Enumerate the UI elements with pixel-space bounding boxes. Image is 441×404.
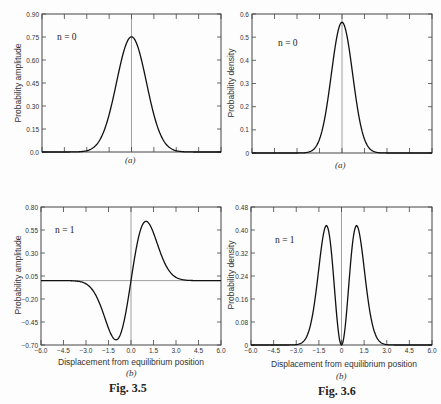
x-tick-label: 1.5: [149, 347, 158, 354]
y-tick-label: 0.2: [240, 103, 249, 110]
y-tick-label: 0.30: [25, 250, 38, 257]
plot-fig3_5b: −0.70−0.45−0.200.050.300.550.80−6.0−4.5−…: [22, 204, 226, 355]
annotation-n0-fig3-5a: n = 0: [57, 32, 77, 42]
annotation-n1-fig3-6b: n = 1: [275, 235, 295, 245]
y-tick-label: 0.80: [25, 204, 38, 211]
y-tick-label: −0.45: [22, 319, 39, 326]
y-tick-label: 0.5: [240, 34, 249, 41]
y-tick-label: 0.08: [235, 319, 248, 326]
y-tick-label: 0.48: [235, 204, 248, 211]
x-tick-label: −3.0: [80, 347, 93, 354]
y-tick-label: 0.32: [235, 250, 248, 257]
panel-label-fig3-5a: (a): [125, 155, 136, 165]
y-tick-label: 0.16: [235, 296, 248, 303]
x-tick-label: 3.0: [382, 347, 391, 354]
y-axis-label-fig3-6a: Probability density: [226, 33, 236, 133]
y-tick-label: 0.05: [25, 273, 38, 280]
x-axis-label-fig3-6b: Displacement from equilibrium position: [271, 359, 417, 369]
y-tick-label: 0.0: [30, 149, 39, 156]
y-tick-label: 0.15: [26, 126, 39, 133]
panel-label-fig3-6b: (b): [336, 371, 347, 381]
panel-label-fig3-6a: (a): [335, 160, 346, 170]
y-tick-label: 0.30: [26, 103, 39, 110]
x-tick-label: −6.0: [35, 347, 48, 354]
x-tick-label: −4.5: [267, 347, 280, 354]
x-tick-label: 0: [340, 347, 344, 354]
x-tick-label: 0.0: [126, 347, 135, 354]
y-axis-label-fig3-5b: Probability amplitude: [13, 225, 23, 325]
x-axis-label-fig3-5b: Displacement from equilibrium position: [58, 357, 204, 367]
plot-fig3_6a: 00.10.20.30.40.50.6: [240, 11, 432, 157]
y-axis-label-fig3-5a: Probability amplitude: [13, 33, 23, 133]
x-tick-label: −4.5: [57, 347, 70, 354]
x-tick-label: −1.5: [312, 347, 325, 354]
y-tick-label: −0.20: [22, 296, 39, 303]
annotation-n0-fig3-6a: n = 0: [278, 38, 298, 48]
x-tick-label: 6.0: [427, 347, 436, 354]
x-tick-label: −3.0: [290, 347, 303, 354]
x-tick-label: 4.5: [194, 347, 203, 354]
x-tick-label: −1.5: [102, 347, 115, 354]
x-tick-label: 3.0: [171, 347, 180, 354]
figure-canvas: 0.00.150.300.450.600.750.9000.10.20.30.4…: [0, 0, 441, 404]
figure-caption-3-6: Fig. 3.6: [318, 384, 356, 399]
y-tick-label: 0.40: [235, 227, 248, 234]
figure-caption-3-5: Fig. 3.5: [109, 381, 147, 396]
y-tick-label: 0.55: [25, 227, 38, 234]
y-tick-label: 0.60: [26, 57, 39, 64]
y-tick-label: 0.24: [235, 273, 248, 280]
x-tick-label: 6.0: [216, 347, 225, 354]
panel-label-fig3-5b: (b): [126, 368, 137, 378]
y-axis-label-fig3-6b: Probability density: [226, 225, 236, 325]
plot-fig3_6b: 00.080.160.240.320.400.48−6.0−4.5−3.0−1.…: [235, 204, 437, 355]
y-tick-label: 0.1: [240, 126, 249, 133]
y-tick-label: 0: [245, 150, 249, 157]
x-tick-label: −6.0: [245, 347, 258, 354]
y-tick-label: 0.45: [26, 80, 39, 87]
y-tick-label: 0.75: [26, 34, 39, 41]
annotation-n1-fig3-5b: n = 1: [55, 225, 75, 235]
x-tick-label: 4.5: [405, 347, 414, 354]
x-tick-label: 1.5: [360, 347, 369, 354]
plot-fig3_5a: 0.00.150.300.450.600.750.90: [26, 11, 221, 156]
y-tick-label: 0.90: [26, 11, 39, 18]
y-tick-label: 0.4: [240, 57, 249, 64]
y-tick-label: 0.6: [240, 11, 249, 18]
y-tick-label: 0.3: [240, 80, 249, 87]
